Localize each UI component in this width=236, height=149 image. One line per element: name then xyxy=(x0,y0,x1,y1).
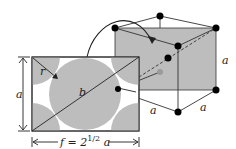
atom-icon xyxy=(115,86,121,92)
atom-icon xyxy=(165,55,172,62)
atom-icon xyxy=(112,25,119,32)
atom-icon xyxy=(175,109,182,116)
label-b: b xyxy=(79,86,86,99)
atom-icon xyxy=(213,25,220,32)
bcc-diagram: a f = 21/2 a r b a a a xyxy=(0,0,236,149)
label-a-cube-bottom-left: a xyxy=(150,104,157,117)
label-f: f = 21/2 a xyxy=(59,134,110,149)
atom-icon xyxy=(175,43,182,50)
label-a-cube-bottom-right: a xyxy=(200,101,207,114)
atom-icon xyxy=(213,87,220,94)
atom-icon xyxy=(157,13,164,20)
hidden-atom-icon xyxy=(157,69,163,75)
label-a-left: a xyxy=(16,88,23,101)
label-a-cube-right: a xyxy=(222,54,229,67)
label-r: r xyxy=(40,65,46,78)
